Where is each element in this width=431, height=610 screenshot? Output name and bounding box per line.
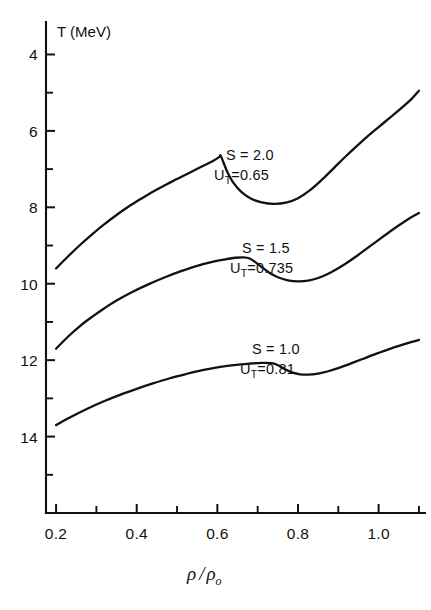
data-curve-1 [56,213,419,349]
x-tick-label: 0.2 [45,525,67,542]
x-tick-label: 0.4 [125,525,148,542]
annotation-ut-base: U [240,361,251,377]
curve-annotations: S = 2.0UT=0.65S = 1.5UT=0.735S = 1.0UT=0… [214,147,300,380]
y-tick-label: 12 [20,352,38,369]
annotation-entropy-0: S = 2.0 [226,147,274,163]
x-axis-title-denominator-subscript: o [216,574,222,588]
x-tick-label: 0.6 [206,525,228,542]
x-tick-label: 1.0 [367,525,390,542]
figure-container: 141210864 0.20.40.60.81.0 T (MeV) ρ/ρo S… [0,0,431,610]
x-axis-title: ρ/ρo [186,563,222,588]
x-axis-title-numerator: ρ [186,563,196,584]
annotation-ut-base: U [230,260,241,276]
x-axis-tick-labels: 0.20.40.60.81.0 [45,525,390,542]
annotation-ut-1: UT=0.735 [230,260,293,279]
annotation-ut-0: UT=0.65 [214,167,269,186]
y-tick-label: 10 [20,276,38,293]
annotation-ut-value: =0.65 [231,167,269,183]
annotation-ut-value: =0.735 [247,260,293,276]
y-tick-label: 14 [20,429,38,446]
x-axis-title-denominator: ρ [205,563,215,584]
temperature-density-chart: 141210864 0.20.40.60.81.0 T (MeV) ρ/ρo S… [0,0,431,610]
y-tick-label: 4 [29,46,38,63]
y-tick-label: 6 [29,123,38,140]
x-tick-label: 0.8 [287,525,309,542]
x-axis-major-ticks [56,504,379,513]
annotation-ut-2: UT=0.81 [240,361,295,380]
annotation-entropy-2: S = 1.0 [252,341,300,357]
data-curve-2 [56,340,419,425]
y-axis-title: T (MeV) [57,23,111,40]
annotation-ut-value: =0.81 [257,361,295,377]
x-axis-title-slash: / [198,563,206,584]
data-curves [56,91,419,425]
y-tick-label: 8 [29,199,38,216]
annotation-entropy-1: S = 1.5 [242,240,290,256]
annotation-ut-base: U [214,167,225,183]
y-axis-tick-labels: 141210864 [20,46,38,445]
